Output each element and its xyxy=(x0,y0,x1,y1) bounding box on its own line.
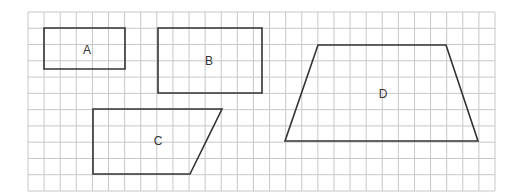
shape-label-a: A xyxy=(83,43,91,57)
shape-label-d: D xyxy=(379,87,388,101)
shape-label-c: C xyxy=(154,134,163,148)
shape-label-b: B xyxy=(205,54,213,68)
grid-diagram xyxy=(0,0,521,196)
